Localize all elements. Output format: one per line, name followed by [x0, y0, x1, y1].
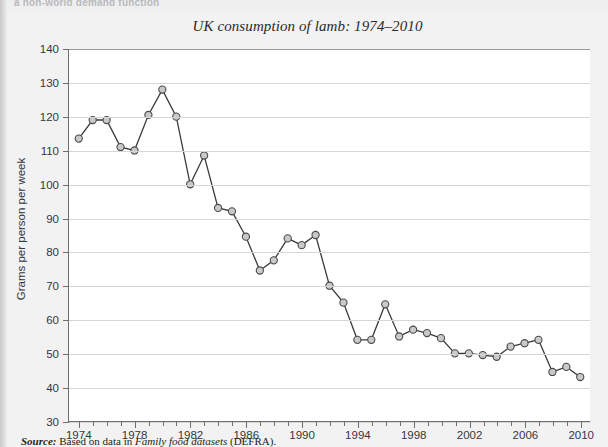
x-tick-1996	[386, 421, 387, 426]
source-label: Source:	[21, 435, 56, 447]
y-tick-60	[63, 320, 69, 321]
data-point-1993	[340, 299, 347, 306]
y-tick-140	[63, 49, 69, 50]
x-tick-2005	[511, 421, 512, 426]
x-tick-1984	[218, 421, 219, 426]
data-point-2008	[549, 368, 556, 375]
data-point-1977	[117, 143, 124, 150]
data-point-1996	[382, 301, 389, 308]
gridline-y-120	[69, 117, 590, 118]
data-point-1985	[228, 208, 235, 215]
x-tick-1980	[163, 421, 164, 426]
x-tick-1974	[79, 421, 80, 428]
x-tick-1999	[428, 421, 429, 426]
y-tick-50	[63, 354, 69, 355]
x-tick-1979	[149, 421, 150, 426]
x-tick-1997	[400, 421, 401, 426]
data-point-1991	[312, 231, 319, 238]
gridline-y-90	[69, 219, 590, 220]
x-tick-1978	[135, 421, 136, 428]
y-tick-label-40: 40	[46, 382, 59, 394]
data-point-2006	[521, 340, 528, 347]
y-tick-label-50: 50	[46, 348, 59, 360]
y-tick-label-120: 120	[40, 111, 59, 123]
x-tick-1987	[260, 421, 261, 426]
x-tick-2000	[442, 421, 443, 426]
x-tick-2009	[567, 421, 568, 426]
source-work-title: Family food datasets	[135, 435, 227, 447]
y-tick-70	[63, 286, 69, 287]
x-tick-1994	[358, 421, 359, 428]
x-tick-2006	[525, 421, 526, 428]
x-tick-2007	[539, 421, 540, 426]
gridline-y-130	[69, 83, 590, 84]
gridline-y-40	[69, 388, 590, 389]
data-point-2005	[507, 343, 514, 350]
y-tick-label-80: 80	[46, 246, 59, 258]
y-tick-90	[63, 219, 69, 220]
data-point-1986	[242, 233, 249, 240]
data-point-1998	[409, 326, 416, 333]
source-text-after: (DEFRA).	[230, 435, 276, 447]
x-tick-1992	[330, 421, 331, 426]
data-point-1974	[75, 135, 82, 142]
source-text-before: Based on data in	[59, 435, 132, 447]
y-tick-label-70: 70	[46, 280, 59, 292]
y-tick-label-60: 60	[46, 314, 59, 326]
y-tick-label-130: 130	[40, 77, 59, 89]
x-tick-1985	[232, 421, 233, 426]
data-point-1990	[298, 242, 305, 249]
x-tick-1983	[204, 421, 205, 426]
data-point-1995	[368, 336, 375, 343]
x-tick-1982	[190, 421, 191, 428]
x-tick-1990	[302, 421, 303, 428]
data-point-1994	[354, 336, 361, 343]
gridline-y-50	[69, 354, 590, 355]
y-tick-label-140: 140	[40, 43, 59, 55]
gridline-y-110	[69, 151, 590, 152]
x-tick-2001	[456, 421, 457, 426]
data-point-1997	[396, 333, 403, 340]
gridline-y-60	[69, 320, 590, 321]
x-tick-1991	[316, 421, 317, 426]
data-point-2009	[563, 363, 570, 370]
x-tick-1988	[274, 421, 275, 426]
y-tick-100	[63, 185, 69, 186]
y-tick-40	[63, 388, 69, 389]
x-tick-1976	[107, 421, 108, 426]
line-series	[69, 49, 590, 421]
x-tick-1981	[176, 421, 177, 426]
y-axis-title: Grams per person per week	[15, 158, 27, 301]
y-tick-120	[63, 117, 69, 118]
x-tick-1989	[288, 421, 289, 426]
y-tick-label-90: 90	[46, 213, 59, 225]
gridline-y-80	[69, 252, 590, 253]
page-top-heading-partial: a non-world demand function	[14, 0, 334, 8]
x-tick-label-2006: 2006	[513, 429, 539, 441]
y-tick-130	[63, 83, 69, 84]
data-point-2007	[535, 336, 542, 343]
x-tick-label-1990: 1990	[289, 429, 315, 441]
plot-area: 3040506070809010011012013014019741978198…	[68, 49, 590, 422]
series-line	[79, 90, 580, 377]
x-tick-label-1994: 1994	[345, 429, 371, 441]
data-point-1980	[159, 86, 166, 93]
y-tick-label-30: 30	[46, 416, 59, 428]
x-tick-1986	[246, 421, 247, 428]
x-tick-2003	[484, 421, 485, 426]
data-point-1987	[256, 267, 263, 274]
gridline-y-100	[69, 185, 590, 186]
x-tick-2002	[470, 421, 471, 428]
x-tick-2008	[553, 421, 554, 426]
x-tick-1998	[414, 421, 415, 428]
data-point-1999	[423, 329, 430, 336]
data-point-1989	[284, 235, 291, 242]
x-tick-label-2002: 2002	[457, 429, 483, 441]
gridline-y-140	[69, 49, 590, 50]
data-point-1988	[270, 257, 277, 264]
chart-title: UK consumption of lamb: 1974–2010	[7, 18, 608, 35]
data-point-1983	[201, 152, 208, 159]
data-point-2000	[437, 335, 444, 342]
y-tick-80	[63, 252, 69, 253]
x-tick-label-2010: 2010	[568, 429, 594, 441]
